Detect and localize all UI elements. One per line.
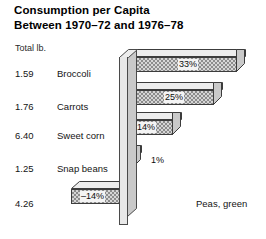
- row-total-value: 6.40: [15, 130, 34, 141]
- row-category-label: Snap beans: [57, 163, 108, 174]
- row-category-label: Peas, green: [196, 198, 247, 209]
- bar-side-face: [172, 112, 181, 135]
- axis-baseline-side-face: [127, 49, 137, 217]
- axis-baseline-front-face: [119, 57, 128, 225]
- bar-value-label: 33%: [178, 59, 198, 70]
- row-total-value: 1.76: [15, 101, 34, 112]
- bar-side-face: [213, 82, 222, 105]
- row-total-value: 1.59: [15, 68, 34, 79]
- row-category-label: Broccoli: [57, 68, 91, 79]
- bar-value-label: 25%: [164, 92, 184, 103]
- bar-side-face: [236, 49, 245, 72]
- row-total-value: 1.25: [15, 163, 34, 174]
- bar-value-label: 1%: [150, 155, 165, 166]
- row-category-label: Carrots: [57, 101, 88, 112]
- bar-broccoli[interactable]: 33%: [128, 49, 254, 72]
- chart-plot-area: 1.59 Broccoli 33% 1.76 Carrots 25% 6.40 …: [0, 0, 266, 239]
- row-total-value: 4.26: [15, 198, 34, 209]
- bar-carrots[interactable]: 25%: [128, 82, 231, 105]
- row-category-label: Sweet corn: [57, 130, 105, 141]
- bar-value-label: 14%: [136, 122, 156, 133]
- bar-sweet-corn[interactable]: 14%: [128, 112, 190, 135]
- bar-value-label: –14%: [80, 191, 105, 202]
